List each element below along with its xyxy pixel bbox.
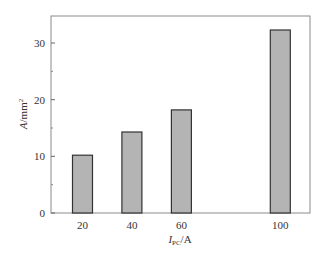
x-tick-label: 60 — [176, 219, 188, 231]
bar-40 — [122, 132, 142, 213]
x-tick-label: 40 — [126, 219, 138, 231]
y-tick-label: 0 — [40, 207, 46, 219]
x-axis-label: IPC/A — [167, 233, 191, 247]
y-axis: 0102030 — [34, 37, 55, 219]
bar-20 — [73, 155, 93, 213]
x-tick-label: 100 — [272, 219, 289, 231]
x-tick-label: 20 — [77, 219, 89, 231]
y-tick-label: 10 — [34, 150, 46, 162]
bar-100 — [270, 30, 290, 213]
y-tick-label: 30 — [34, 37, 46, 49]
x-axis: 204060100 — [77, 219, 289, 231]
bar-60 — [171, 110, 191, 213]
y-axis-label: A/mm2 — [17, 98, 29, 130]
bar-chart: 0102030 204060100 IPC/A A/mm2 — [0, 0, 328, 262]
bars — [73, 30, 291, 213]
y-tick-label: 20 — [34, 94, 46, 106]
